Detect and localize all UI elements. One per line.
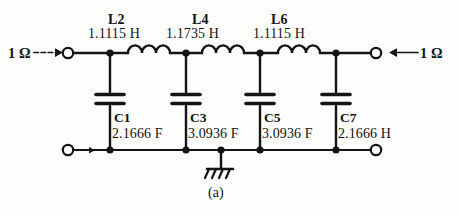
load-terminal-node (371, 48, 381, 58)
capacitor-C1-ref-label: C1 (114, 110, 131, 126)
capacitor-C5-ref-label: C5 (264, 110, 281, 126)
ground-icon (205, 146, 233, 178)
capacitor-C5-value-label: 3.0936 F (262, 126, 313, 142)
return-current-arrow-icon (89, 147, 95, 153)
inductor-L4-symbol (202, 45, 244, 53)
inductor-L6-symbol (278, 45, 320, 53)
source-current-arrow-icon (34, 48, 63, 57)
capacitor-C3-ref-label: C3 (190, 110, 207, 126)
source-return-terminal-node (63, 145, 73, 155)
capacitor-C1-value-label: 2.1666 F (112, 126, 163, 142)
capacitor-C7-ref-label: C7 (340, 110, 357, 126)
inductor-L2-symbol (128, 45, 170, 53)
capacitor-C3-value-label: 3.0936 F (188, 126, 239, 142)
load-current-arrow-icon (389, 48, 418, 57)
inductor-L6-value-label: 1.1115 H (253, 26, 305, 42)
capacitor-C7-value-label: 2.1666 H (338, 126, 391, 142)
load-return-terminal-node (371, 145, 381, 155)
source-impedance-label: 1 Ω (8, 45, 31, 62)
circuit-schematic-svg (0, 0, 458, 217)
inductor-L2-value-label: 1.1115 H (88, 26, 140, 42)
figure-caption: (a) (208, 185, 224, 201)
inductor-L4-value-label: 1.1735 H (166, 26, 219, 42)
source-terminal-node (63, 48, 73, 58)
circuit-diagram-figure: L2 1.1115 H L4 1.1735 H L6 1.1115 H 1 Ω … (0, 0, 458, 217)
load-impedance-label: 1 Ω (420, 45, 443, 62)
